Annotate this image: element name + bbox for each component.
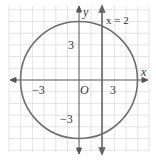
tick-y-pos-3: 3 [68, 38, 74, 52]
x-axis-left-arrow-icon [10, 78, 16, 83]
tick-x-neg-3: −3 [32, 83, 45, 97]
y-axis-label: y [82, 5, 89, 19]
y-axis-up-arrow-icon [77, 6, 82, 12]
origin-label: O [80, 83, 89, 97]
line-up-arrow-icon [100, 6, 105, 12]
line-down-arrow-icon [100, 148, 105, 154]
coordinate-diagram: y x x = 2 O −3 3 3 −3 [0, 0, 156, 161]
tick-x-pos-3: 3 [110, 83, 116, 97]
x-axis-label: x [140, 65, 147, 79]
y-axis-down-arrow-icon [77, 148, 82, 154]
tick-y-neg-3: −3 [60, 112, 73, 126]
line-label: x = 2 [106, 14, 129, 26]
